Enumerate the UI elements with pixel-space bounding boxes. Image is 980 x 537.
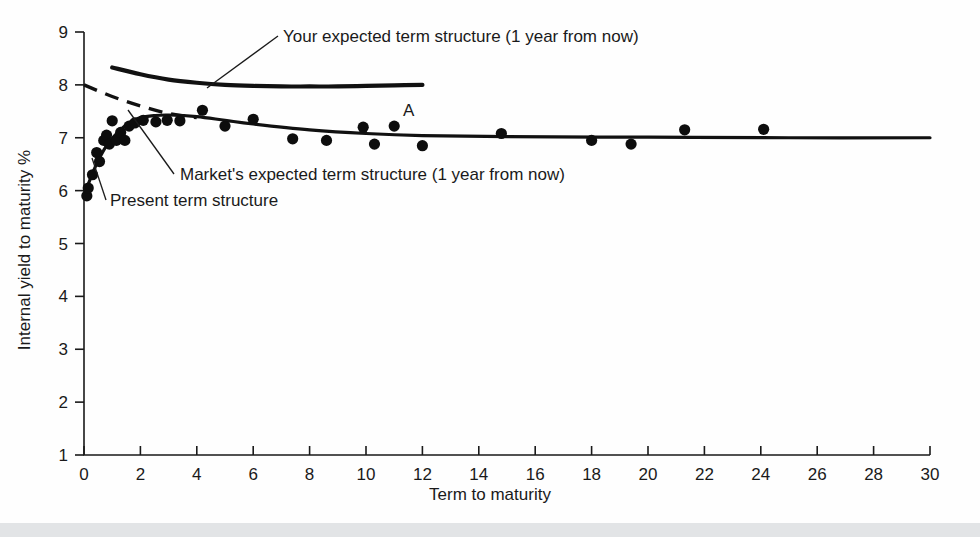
x-tick-label-14: 14 bbox=[469, 465, 488, 484]
y-tick-label-2: 2 bbox=[59, 393, 68, 412]
data-point-24 bbox=[369, 139, 380, 150]
data-point-4 bbox=[94, 156, 105, 167]
x-tick-label-30: 30 bbox=[921, 465, 940, 484]
data-point-16 bbox=[162, 115, 173, 126]
x-tick-label-24: 24 bbox=[751, 465, 770, 484]
x-axis-title: Term to maturity bbox=[429, 485, 551, 504]
bottom-accent-bar bbox=[0, 523, 980, 537]
chart-background bbox=[0, 0, 980, 537]
x-tick-label-18: 18 bbox=[582, 465, 601, 484]
data-point-31 bbox=[758, 124, 769, 135]
data-point-30 bbox=[679, 124, 690, 135]
x-tick-label-4: 4 bbox=[192, 465, 201, 484]
data-point-18 bbox=[197, 105, 208, 116]
data-point-14 bbox=[138, 115, 149, 126]
chart-figure: 024681012141618202224262830 123456789 Te… bbox=[0, 0, 980, 537]
x-tick-label-12: 12 bbox=[413, 465, 432, 484]
term-structure-chart: 024681012141618202224262830 123456789 Te… bbox=[0, 0, 980, 537]
data-point-1 bbox=[83, 182, 94, 193]
x-tick-label-8: 8 bbox=[305, 465, 314, 484]
data-point-27 bbox=[496, 128, 507, 139]
data-point-22 bbox=[321, 135, 332, 146]
y-tick-label-8: 8 bbox=[59, 76, 68, 95]
data-point-29 bbox=[625, 139, 636, 150]
x-tick-label-10: 10 bbox=[357, 465, 376, 484]
x-tick-label-28: 28 bbox=[864, 465, 883, 484]
x-tick-label-0: 0 bbox=[79, 465, 88, 484]
y-tick-label-1: 1 bbox=[59, 446, 68, 465]
data-point-11 bbox=[119, 135, 130, 146]
x-tick-label-22: 22 bbox=[695, 465, 714, 484]
x-tick-label-20: 20 bbox=[639, 465, 658, 484]
data-point-21 bbox=[287, 133, 298, 144]
x-tick-label-2: 2 bbox=[136, 465, 145, 484]
data-point-25 bbox=[389, 121, 400, 132]
data-point-19 bbox=[219, 121, 230, 132]
data-point-15 bbox=[150, 116, 161, 127]
x-tick-label-26: 26 bbox=[808, 465, 827, 484]
data-point-28 bbox=[586, 135, 597, 146]
y-tick-label-5: 5 bbox=[59, 235, 68, 254]
x-tick-label-16: 16 bbox=[526, 465, 545, 484]
data-point-20 bbox=[248, 114, 259, 125]
x-tick-label-6: 6 bbox=[248, 465, 257, 484]
annotation-markets-expected-term-structure: Market's expected term structure (1 year… bbox=[180, 165, 565, 184]
y-tick-label-6: 6 bbox=[59, 182, 68, 201]
y-tick-label-9: 9 bbox=[59, 23, 68, 42]
data-point-23 bbox=[358, 122, 369, 133]
y-axis-title: Internal yield to maturity % bbox=[15, 150, 34, 350]
data-point-17 bbox=[174, 115, 185, 126]
y-tick-label-7: 7 bbox=[59, 129, 68, 148]
annotation-present-term-structure: Present term structure bbox=[110, 191, 278, 210]
data-point-26 bbox=[417, 140, 428, 151]
y-tick-labels: 123456789 bbox=[59, 23, 68, 465]
annotation-your-expected-term-structure: Your expected term structure (1 year fro… bbox=[283, 27, 639, 46]
annotation-point-a: A bbox=[403, 101, 415, 120]
y-tick-label-3: 3 bbox=[59, 340, 68, 359]
y-tick-label-4: 4 bbox=[59, 287, 68, 306]
data-point-8 bbox=[107, 115, 118, 126]
